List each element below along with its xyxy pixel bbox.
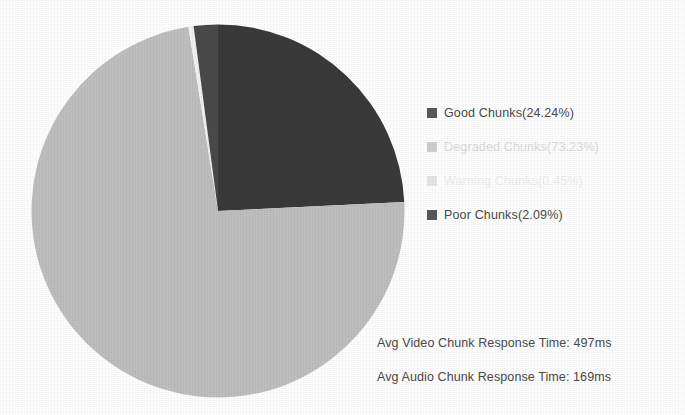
pie-chart — [31, 24, 405, 398]
pie-slice-good-chunks[interactable] — [218, 25, 404, 212]
legend-swatch-warning-chunks — [427, 176, 437, 186]
chart-canvas: Good Chunks(24.24%) Degraded Chunks(73.2… — [0, 0, 685, 415]
chart-annotations: Avg Video Chunk Response Time: 497ms Avg… — [377, 337, 677, 383]
legend-label-poor-chunks: Poor Chunks(2.09%) — [444, 209, 563, 222]
annotation-avg-video-chunk-response-time: Avg Video Chunk Response Time: 497ms — [377, 337, 677, 350]
legend-label-degraded-chunks: Degraded Chunks(73.23%) — [444, 141, 599, 154]
legend-swatch-poor-chunks — [427, 210, 437, 220]
legend-label-good-chunks: Good Chunks(24.24%) — [444, 107, 574, 120]
legend-label-warning-chunks: Warning Chunks(0.45%) — [444, 175, 583, 188]
legend-item-poor-chunks[interactable]: Poor Chunks(2.09%) — [427, 198, 667, 232]
legend-item-warning-chunks[interactable]: Warning Chunks(0.45%) — [427, 164, 667, 198]
legend-swatch-good-chunks — [427, 108, 437, 118]
legend-item-good-chunks[interactable]: Good Chunks(24.24%) — [427, 96, 667, 130]
chart-legend: Good Chunks(24.24%) Degraded Chunks(73.2… — [427, 96, 667, 232]
legend-item-degraded-chunks[interactable]: Degraded Chunks(73.23%) — [427, 130, 667, 164]
pie-chart-svg — [31, 24, 405, 398]
annotation-avg-audio-chunk-response-time: Avg Audio Chunk Response Time: 169ms — [377, 371, 677, 384]
legend-swatch-degraded-chunks — [427, 142, 437, 152]
